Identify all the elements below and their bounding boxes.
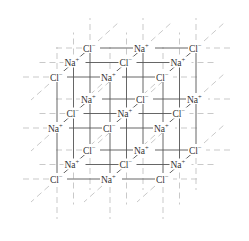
chloride-ion: Cl− — [66, 107, 84, 119]
dash-depth-front — [31, 186, 49, 202]
sodium-ion: Na+ — [170, 56, 192, 68]
dash-depth-front — [31, 135, 49, 151]
dash-depth-back — [204, 125, 224, 143]
sodium-ion: Na+ — [117, 107, 139, 119]
dash-depth-front — [31, 84, 49, 100]
ion-labels: Cl−Na+Cl−Na+Cl−Na+Cl−Na+Cl−Na+Cl−Na+Cl−N… — [47, 42, 208, 185]
chloride-ion: Cl− — [49, 173, 67, 185]
chloride-ion: Cl− — [188, 144, 206, 156]
sodium-ion: Na+ — [80, 93, 102, 105]
dash-depth-back — [151, 23, 171, 41]
dash-depth-back — [204, 74, 224, 92]
dash-depth-front — [137, 186, 155, 202]
sodium-ion: Na+ — [133, 42, 155, 54]
chloride-ion: Cl− — [188, 42, 206, 54]
dash-depth-back — [204, 23, 224, 41]
sodium-ion: Na+ — [186, 93, 208, 105]
sodium-ion: Na+ — [100, 173, 122, 185]
dash-depth-front — [84, 186, 102, 202]
nacl-lattice-diagram: Cl−Na+Cl−Na+Cl−Na+Cl−Na+Cl−Na+Cl−Na+Cl−N… — [0, 0, 249, 241]
sodium-ion: Na+ — [64, 56, 86, 68]
sodium-ion: Na+ — [170, 158, 192, 170]
sodium-ion: Na+ — [100, 71, 122, 83]
sodium-ion: Na+ — [153, 122, 175, 134]
chloride-ion: Cl− — [102, 122, 120, 134]
chloride-ion: Cl− — [155, 173, 173, 185]
chloride-ion: Cl− — [135, 93, 153, 105]
chloride-ion: Cl− — [172, 107, 190, 119]
dash-depth-back — [98, 23, 118, 41]
sodium-ion: Na+ — [133, 144, 155, 156]
chloride-ion: Cl− — [119, 158, 137, 170]
chloride-ion: Cl− — [82, 144, 100, 156]
chloride-ion: Cl− — [82, 42, 100, 54]
chloride-ion: Cl− — [155, 71, 173, 83]
chloride-ion: Cl− — [119, 56, 137, 68]
sodium-ion: Na+ — [64, 158, 86, 170]
chloride-ion: Cl− — [49, 71, 67, 83]
sodium-ion: Na+ — [47, 122, 69, 134]
